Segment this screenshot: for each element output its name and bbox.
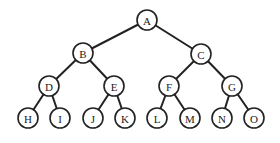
tree-node-o: O [244,108,264,128]
tree-node-e: E [104,76,124,96]
tree-node-a: A [137,10,157,30]
tree-svg: ABCDEFGHIJKLMNO [0,0,280,143]
node-label: B [79,48,86,60]
tree-node-n: N [212,108,232,128]
tree-node-c: C [191,44,211,64]
tree-node-l: L [147,108,167,128]
tree-node-b: B [73,43,93,63]
node-label: M [185,113,195,125]
tree-node-g: G [222,76,242,96]
edges-layer [28,20,254,118]
tree-node-k: K [115,108,135,128]
node-label: F [166,81,172,93]
tree-node-j: J [83,108,103,128]
node-label: D [45,81,53,93]
tree-node-h: H [18,108,38,128]
node-label: O [250,113,258,125]
nodes-layer: ABCDEFGHIJKLMNO [18,10,264,128]
node-label: I [58,113,62,125]
node-label: N [218,113,226,125]
node-label: A [143,15,151,27]
node-label: C [197,49,204,61]
tree-diagram: ABCDEFGHIJKLMNO [0,0,280,143]
edge-a-b [83,20,147,53]
node-label: K [121,113,129,125]
tree-node-d: D [39,76,59,96]
node-label: E [111,81,118,93]
node-label: H [24,113,32,125]
node-label: G [228,81,236,93]
node-label: J [91,113,96,125]
node-label: L [154,113,161,125]
tree-node-f: F [159,76,179,96]
tree-node-m: M [180,108,200,128]
tree-node-i: I [50,108,70,128]
